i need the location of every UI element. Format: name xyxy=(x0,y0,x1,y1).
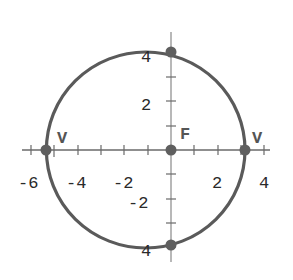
bottom-intercept-point xyxy=(166,240,177,251)
y-tick-label: 2 xyxy=(141,96,151,115)
focus-label: F xyxy=(180,125,190,144)
x-tick-label: 4 xyxy=(259,174,269,193)
vertex-right-point xyxy=(240,145,251,156)
vertex-left-label: V xyxy=(57,129,68,148)
y-tick-label: 4 xyxy=(141,48,151,67)
y-tick-label: 4 xyxy=(141,242,151,261)
vertex-left-point xyxy=(41,145,52,156)
x-tick-label: -2 xyxy=(113,174,133,193)
x-tick-label: 2 xyxy=(212,174,222,193)
focus-point xyxy=(166,145,177,156)
chart-area: -6 -4 -2 2 4 4 2 -2 4 V V F xyxy=(0,0,293,280)
y-tick-label: -2 xyxy=(128,194,148,213)
vertex-right-label: V xyxy=(252,129,263,148)
x-tick-label: -6 xyxy=(18,174,38,193)
top-intercept-point xyxy=(166,47,177,58)
x-tick-label: -4 xyxy=(66,174,86,193)
ellipse-plot: -6 -4 -2 2 4 4 2 -2 4 V V F xyxy=(0,0,293,280)
